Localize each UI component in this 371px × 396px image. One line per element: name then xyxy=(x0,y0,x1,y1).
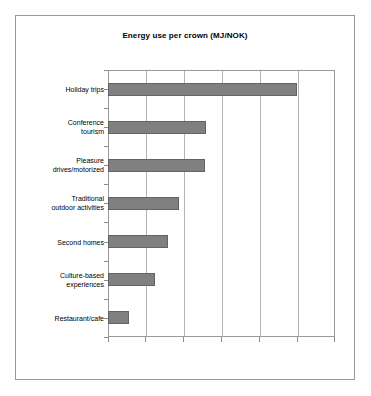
y-axis-label-line: Restaurant/cafe xyxy=(18,314,104,323)
y-axis-label-second-homes: Second homes xyxy=(18,238,104,247)
y-axis-label-line: experiences xyxy=(18,280,104,289)
x-axis-tick xyxy=(183,337,184,342)
bar-culture-based-experiences[interactable] xyxy=(108,273,155,286)
bar-holiday-trips[interactable] xyxy=(108,83,297,96)
y-axis-tick xyxy=(104,127,108,128)
y-axis-label-line: Second homes xyxy=(18,238,104,247)
y-axis-label-traditional-outdoor-activities: Traditional outdoor activities xyxy=(18,194,104,212)
bars-layer xyxy=(108,70,335,337)
bar-row xyxy=(108,184,335,222)
y-axis-label-line: drives/motorized xyxy=(18,165,104,174)
y-axis-tick xyxy=(104,280,108,281)
y-axis-tick xyxy=(104,222,108,223)
y-axis-labels: Holiday trips Conference tourism Pleasur… xyxy=(18,70,104,337)
y-axis-label-line: Conference xyxy=(18,118,104,127)
bar-row xyxy=(108,299,335,337)
chart-title: Energy use per crown (MJ/NOK) xyxy=(15,31,355,40)
x-axis-tick xyxy=(145,337,146,342)
y-axis-label-culture-based-experiences: Culture-based experiences xyxy=(18,271,104,289)
y-axis-label-restaurant-cafe: Restaurant/cafe xyxy=(18,314,104,323)
bar-second-homes[interactable] xyxy=(108,235,168,248)
y-axis-tick xyxy=(104,318,108,319)
bar-conference-tourism[interactable] xyxy=(108,121,206,134)
y-axis-label-holiday-trips: Holiday trips xyxy=(18,85,104,94)
y-axis-label-line: Traditional xyxy=(18,194,104,203)
x-axis-tick xyxy=(221,337,222,342)
y-axis-tick xyxy=(104,203,108,204)
y-axis-label-line: Pleasure xyxy=(18,156,104,165)
y-axis-tick xyxy=(104,108,108,109)
bar-traditional-outdoor-activities[interactable] xyxy=(108,197,179,210)
y-axis-tick xyxy=(104,165,108,166)
bar-row xyxy=(108,108,335,146)
y-axis-tick xyxy=(104,261,108,262)
y-axis-label-pleasure-drives-motorized: Pleasure drives/motorized xyxy=(18,156,104,174)
y-axis-label-conference-tourism: Conference tourism xyxy=(18,118,104,136)
bar-pleasure-drives-motorized[interactable] xyxy=(108,159,205,172)
x-axis-tick xyxy=(108,337,109,342)
bar-row xyxy=(108,223,335,261)
y-axis-label-line: tourism xyxy=(18,127,104,136)
y-axis-label-line: Culture-based xyxy=(18,271,104,280)
x-axis-tick xyxy=(334,337,335,342)
bar-row xyxy=(108,146,335,184)
y-axis-tick xyxy=(104,299,108,300)
x-axis-tick xyxy=(259,337,260,342)
y-axis-tick xyxy=(104,89,108,90)
y-axis-tick xyxy=(104,242,108,243)
y-axis-label-line: Holiday trips xyxy=(18,85,104,94)
bar-row xyxy=(108,261,335,299)
chart-figure: Energy use per crown (MJ/NOK) xyxy=(0,0,371,396)
y-axis-tick xyxy=(104,184,108,185)
x-axis-tick xyxy=(297,337,298,342)
bar-restaurant-cafe[interactable] xyxy=(108,311,129,324)
y-axis-tick xyxy=(104,70,108,71)
bar-row xyxy=(108,70,335,108)
y-axis-label-line: outdoor activities xyxy=(18,203,104,212)
y-axis-tick xyxy=(104,146,108,147)
